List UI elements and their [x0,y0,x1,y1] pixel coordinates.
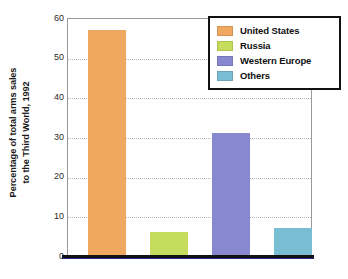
y-tick-40: 40 [42,93,64,102]
y-tick-0: 0 [42,252,64,261]
x-axis-underline [62,258,314,259]
bar-russia [150,232,188,256]
y-axis-title-line-1: Percentage of total arms sales [8,68,21,198]
y-tick-20: 20 [42,172,64,181]
bar-western-europe [212,133,250,256]
y-axis-title-line-2: to the Third World, 1992 [20,68,33,198]
y-tick-10: 10 [42,212,64,221]
legend-swatch-icon-russia [217,41,233,51]
legend-swatch-icon-united-states [217,26,233,36]
legend-item-others: Others [217,68,333,83]
y-axis-title: Percentage of total arms sales to the Th… [0,0,40,265]
legend-label-others: Others [240,70,270,81]
chart-legend: United States Russia Western Europe Othe… [208,16,341,90]
legend-label-russia: Russia [240,40,271,51]
bar-chart-figure: Percentage of total arms sales to the Th… [0,0,348,279]
legend-item-western-europe: Western Europe [217,53,333,68]
y-tick-60: 60 [42,14,64,23]
legend-swatch-icon-western-europe [217,56,233,66]
y-tick-50: 50 [42,53,64,62]
legend-label-western-europe: Western Europe [240,55,311,66]
legend-item-russia: Russia [217,38,333,53]
y-axis-tick-labels: 60 50 40 30 20 10 0 [38,0,64,279]
bar-united-states [88,30,126,256]
bar-others [274,228,312,256]
y-tick-30: 30 [42,133,64,142]
legend-swatch-icon-others [217,71,233,81]
legend-item-united-states: United States [217,23,333,38]
legend-label-united-states: United States [240,25,299,36]
